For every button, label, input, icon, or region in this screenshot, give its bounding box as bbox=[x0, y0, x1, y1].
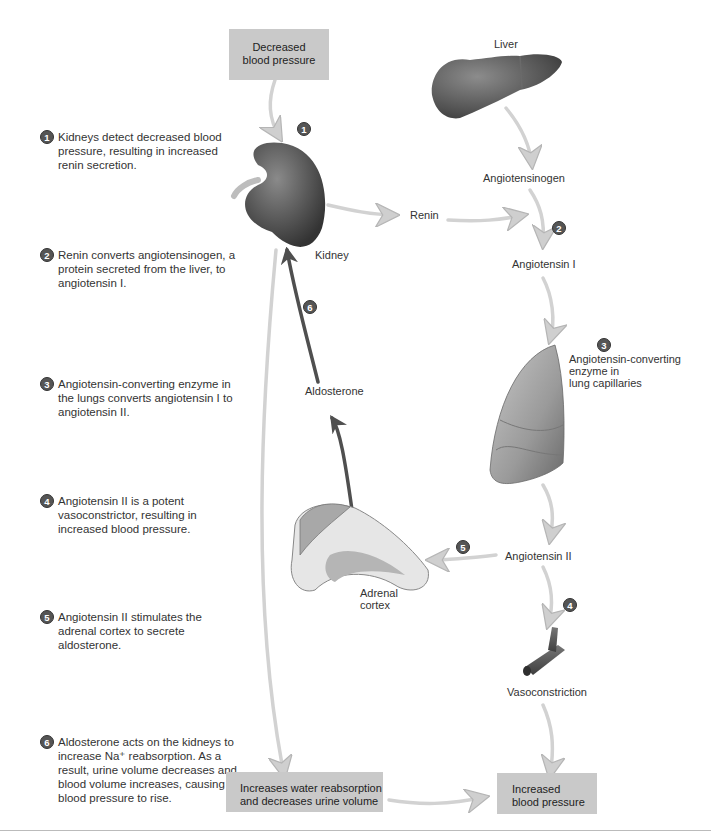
step-3: 3 Angiotensin-converting enzyme in the l… bbox=[40, 377, 240, 419]
diagram-badge-6: 6 bbox=[303, 300, 317, 314]
vasoconstriction-label: Vasoconstriction bbox=[507, 686, 587, 698]
arrow-liver-to-angiotensinogen bbox=[506, 108, 532, 165]
angiotensinogen-label: Angiotensinogen bbox=[483, 172, 565, 184]
box-line: Increases water reabsorption bbox=[240, 782, 383, 795]
arrow-angiotensinogen-to-angiotensin-i bbox=[530, 190, 543, 245]
step-text: Angiotensin II is a potent vasoconstrict… bbox=[40, 494, 240, 536]
angiotensin-i-label: Angiotensin I bbox=[512, 258, 576, 270]
increased-blood-pressure-box: Increased blood pressure bbox=[497, 773, 597, 814]
arrow-kidney-to-renin bbox=[328, 205, 395, 215]
box-line: and decreases urine volume bbox=[240, 795, 383, 808]
ace-label: Angiotensin-converting enzyme in lung ca… bbox=[569, 353, 681, 389]
water-reabsorption-box: Increases water reabsorption and decreas… bbox=[226, 772, 383, 812]
adrenal-label-line: Adrenal bbox=[360, 587, 398, 599]
step-1: 1 Kidneys detect decreased blood pressur… bbox=[40, 130, 240, 172]
adrenal-cortex-illustration bbox=[291, 504, 428, 591]
step-6: 6 Aldosterone acts on the kidneys to inc… bbox=[40, 735, 240, 805]
adrenal-label-line: cortex bbox=[360, 599, 398, 611]
arrow-lungs-to-angiotensin-ii bbox=[543, 485, 552, 540]
renin-label: Renin bbox=[410, 209, 439, 221]
arrow-angiotensin-i-to-lungs bbox=[543, 278, 553, 340]
arrow-bp-to-kidney bbox=[270, 80, 280, 138]
liver-illustration bbox=[432, 54, 562, 118]
step-text: Kidneys detect decreased blood pressure,… bbox=[40, 130, 240, 172]
step-badge: 4 bbox=[40, 494, 54, 508]
step-2: 2 Renin converts angiotensinogen, a prot… bbox=[40, 248, 240, 290]
step-text: Aldosterone acts on the kidneys to incre… bbox=[40, 735, 240, 805]
kidney-label: Kidney bbox=[315, 249, 349, 261]
liver-label: Liver bbox=[494, 38, 518, 50]
box-line: Decreased bbox=[229, 41, 329, 54]
step-5: 5 Angiotensin II stimulates the adrenal … bbox=[40, 610, 240, 652]
step-text: Angiotensin II stimulates the adrenal co… bbox=[40, 610, 240, 652]
blood-vessel-illustration bbox=[523, 627, 565, 676]
arrow-kidney-to-water-reabsorption bbox=[262, 250, 284, 775]
adrenal-cortex-label: Adrenal cortex bbox=[360, 587, 398, 611]
box-line: Increased bbox=[512, 783, 597, 796]
ace-label-line: enzyme in bbox=[569, 365, 681, 377]
box-line: blood pressure bbox=[512, 796, 597, 809]
diagram-badge-1: 1 bbox=[297, 122, 311, 136]
lung-illustration bbox=[490, 345, 564, 484]
step-badge: 1 bbox=[40, 130, 54, 144]
arrow-angiotensin-ii-to-adrenal bbox=[430, 555, 496, 560]
arrow-vasoconstriction-to-increased-bp bbox=[543, 705, 552, 775]
ace-label-line: Angiotensin-converting bbox=[569, 353, 681, 365]
diagram-graphics bbox=[0, 0, 711, 839]
decreased-blood-pressure-box: Decreased blood pressure bbox=[229, 29, 329, 80]
step-text: Renin converts angiotensinogen, a protei… bbox=[40, 248, 240, 290]
arrow-water-to-increased-bp bbox=[389, 797, 485, 803]
diagram-badge-5: 5 bbox=[456, 540, 470, 554]
arrow-renin-to-angiotensin-i bbox=[448, 215, 524, 221]
aldosterone-label: Aldosterone bbox=[305, 385, 364, 397]
diagram-badge-3: 3 bbox=[597, 338, 611, 352]
diagram-badge-4: 4 bbox=[563, 598, 577, 612]
kidney-illustration bbox=[234, 142, 325, 246]
step-badge: 3 bbox=[40, 377, 54, 391]
step-4: 4 Angiotensin II is a potent vasoconstri… bbox=[40, 494, 240, 536]
step-badge: 2 bbox=[40, 248, 54, 262]
step-badge: 6 bbox=[40, 735, 54, 749]
arrow-angiotensin-ii-to-vessel bbox=[543, 567, 551, 625]
box-line: blood pressure bbox=[229, 54, 329, 67]
step-badge: 5 bbox=[40, 610, 54, 624]
ace-label-line: lung capillaries bbox=[569, 377, 681, 389]
arrow-adrenal-to-aldosterone bbox=[332, 418, 352, 510]
arrow-aldosterone-to-kidney bbox=[287, 250, 318, 382]
angiotensin-ii-label: Angiotensin II bbox=[505, 550, 572, 562]
diagram-badge-2: 2 bbox=[552, 221, 566, 235]
bottom-divider bbox=[0, 830, 711, 831]
step-text: Angiotensin-converting enzyme in the lun… bbox=[40, 377, 240, 419]
